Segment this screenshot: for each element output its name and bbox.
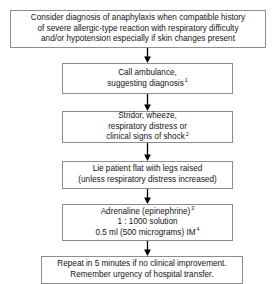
node-line: Lie patient flat with legs raised bbox=[93, 164, 203, 175]
node-line: Adrenaline (epinephrine)3 bbox=[101, 207, 195, 218]
node-line: 0.5 ml (500 micrograms) IM4 bbox=[95, 228, 199, 239]
node-line: 1 : 1000 solution bbox=[117, 217, 177, 228]
node-line: and/or hypotension especially if skin ch… bbox=[41, 34, 235, 45]
arrow-connector bbox=[142, 143, 153, 161]
node-line: Stridor, wheeze, bbox=[118, 111, 177, 122]
dose-concentration: 1 : 1000 bbox=[117, 217, 147, 226]
arrow-down-icon bbox=[142, 94, 153, 111]
node-line: (unless respiratory distress increased) bbox=[78, 175, 216, 186]
node-line-text: Adrenaline (epinephrine) bbox=[101, 207, 191, 216]
node-line-text: suggesting diagnosis bbox=[107, 79, 183, 88]
node-line-text: solution bbox=[147, 217, 178, 226]
footnote-marker: 2 bbox=[185, 131, 189, 137]
flow-node-adrenaline: Adrenaline (epinephrine)3 1 : 1000 solut… bbox=[62, 204, 233, 241]
arrow-connector bbox=[142, 189, 153, 204]
node-line: Repeat in 5 minutes if no clinical impro… bbox=[57, 259, 226, 270]
flow-node-lie-patient-flat: Lie patient flat with legs raised (unles… bbox=[62, 161, 233, 189]
arrow-connector bbox=[142, 241, 153, 256]
flow-node-call-ambulance: Call ambulance, suggesting diagnosis1 bbox=[62, 63, 233, 94]
arrow-connector bbox=[142, 94, 153, 111]
flow-node-signs-symptoms: Stridor, wheeze, respiratory distress or… bbox=[62, 111, 233, 143]
node-line-text: clinical signs of shock bbox=[106, 132, 185, 141]
node-line: respiratory distress or bbox=[108, 122, 187, 133]
arrow-down-icon bbox=[142, 143, 153, 161]
node-line: of severe allergic-type reaction with re… bbox=[38, 24, 239, 35]
node-line: Remember urgency of hospital transfer. bbox=[70, 270, 213, 281]
footnote-marker: 1 bbox=[184, 77, 188, 83]
arrow-down-icon bbox=[142, 241, 153, 256]
node-line-text: 0.5 ml (500 micrograms) IM bbox=[95, 228, 195, 237]
node-line: Consider diagnosis of anaphylaxis when c… bbox=[31, 13, 245, 24]
node-line: suggesting diagnosis1 bbox=[107, 79, 187, 90]
arrow-connector bbox=[142, 48, 153, 63]
arrow-down-icon bbox=[142, 48, 153, 63]
footnote-marker: 4 bbox=[196, 226, 200, 232]
node-line: clinical signs of shock2 bbox=[106, 132, 189, 143]
flow-node-repeat: Repeat in 5 minutes if no clinical impro… bbox=[41, 256, 243, 284]
footnote-marker: 3 bbox=[190, 205, 194, 211]
flow-node-consider-diagnosis: Consider diagnosis of anaphylaxis when c… bbox=[10, 10, 266, 48]
arrow-down-icon bbox=[142, 189, 153, 204]
node-line: Call ambulance, bbox=[118, 68, 177, 79]
